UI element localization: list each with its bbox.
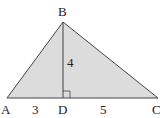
vertex-label-a: A <box>1 102 11 117</box>
measure-ad: 3 <box>32 102 39 117</box>
measure-bd: 4 <box>67 55 74 70</box>
measure-dc: 5 <box>100 102 107 117</box>
triangle-abc <box>7 22 158 98</box>
vertex-label-c: C <box>152 102 160 117</box>
vertex-label-d: D <box>58 102 67 117</box>
triangle-diagram: B A D C 4 3 5 <box>0 0 160 118</box>
vertex-label-b: B <box>58 4 67 19</box>
